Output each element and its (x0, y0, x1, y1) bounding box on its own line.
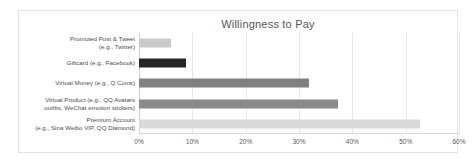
bar-row: Virtual Product (e.g., QQ Avatars outfit… (139, 94, 459, 114)
bar (139, 59, 186, 68)
bar-row: Giftcard (e.g., Facebook) (139, 53, 459, 73)
bar-row: Promoted Post & Tweet (e.g., Twitter) (139, 33, 459, 53)
category-label: Premium Account (e.g., Sina Weibo VIP, Q… (0, 116, 135, 132)
x-axis-tick-labels: 0%10%20%30%40%50%60% (139, 136, 459, 150)
x-tick-label: 20% (239, 138, 252, 145)
x-tick-label: 0% (134, 138, 143, 145)
bar (139, 79, 309, 88)
bar-row: Premium Account (e.g., Sina Weibo VIP, Q… (139, 114, 459, 134)
bar-series: Promoted Post & Tweet (e.g., Twitter)Gif… (139, 33, 459, 134)
chart-screenshot: Willingness to Pay Promoted Post & Tweet… (0, 0, 476, 163)
bar-row: Virtual Money (e.g., Q Coins) (139, 73, 459, 93)
x-tick-label: 40% (346, 138, 359, 145)
category-label: Virtual Money (e.g., Q Coins) (0, 79, 135, 87)
x-tick-label: 30% (292, 138, 305, 145)
chart-frame: Willingness to Pay Promoted Post & Tweet… (18, 10, 458, 153)
bar (139, 39, 171, 48)
x-tick-label: 50% (399, 138, 412, 145)
category-label: Giftcard (e.g., Facebook) (0, 59, 135, 67)
category-label: Virtual Product (e.g., QQ Avatars outfit… (0, 96, 135, 112)
bar (139, 99, 338, 108)
category-label: Promoted Post & Tweet (e.g., Twitter) (0, 35, 135, 51)
plot-area: Promoted Post & Tweet (e.g., Twitter)Gif… (139, 33, 459, 134)
x-tick-label: 60% (452, 138, 465, 145)
bar (139, 119, 420, 128)
chart-title: Willingness to Pay (19, 18, 457, 30)
x-tick-label: 10% (186, 138, 199, 145)
gridline-60 (459, 33, 460, 134)
